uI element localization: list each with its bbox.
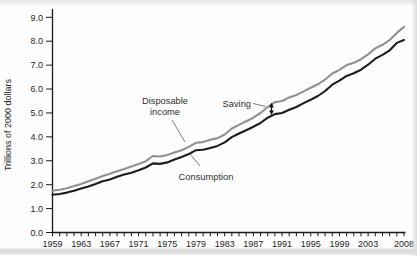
disposable-income-pointer-line	[172, 120, 185, 142]
saving-pointer-line	[253, 104, 266, 107]
page-edge-right	[411, 0, 417, 256]
y-tick-label: 1.0	[30, 204, 43, 214]
consumption-pointer-line	[190, 154, 200, 166]
consumption-label: Consumption	[179, 172, 234, 182]
y-axis-ticks: 0.01.02.03.04.05.06.07.08.09.0	[30, 13, 52, 238]
y-tick-label: 4.0	[30, 132, 43, 142]
y-tick-label: 5.0	[30, 108, 43, 118]
saving-label: Saving	[223, 99, 251, 109]
disposable-income-label-line1: Disposable	[142, 96, 188, 106]
y-tick-label: 9.0	[30, 13, 43, 23]
disposable-income-label-line2: income	[150, 107, 180, 117]
page-edge-bottom	[0, 247, 417, 255]
y-tick-label: 0.0	[30, 228, 43, 238]
y-tick-label: 8.0	[30, 36, 43, 46]
figure-page: 0.01.02.03.04.05.06.07.08.09.0 195919631…	[0, 0, 417, 256]
y-tick-label: 2.0	[30, 180, 43, 190]
page-edge-top	[0, 0, 417, 6]
y-tick-label: 3.0	[30, 156, 43, 166]
y-tick-label: 6.0	[30, 84, 43, 94]
line-chart: 0.01.02.03.04.05.06.07.08.09.0 195919631…	[0, 0, 417, 256]
y-axis-title: Trillions of 2000 dollars	[3, 78, 13, 171]
y-tick-label: 7.0	[30, 60, 43, 70]
